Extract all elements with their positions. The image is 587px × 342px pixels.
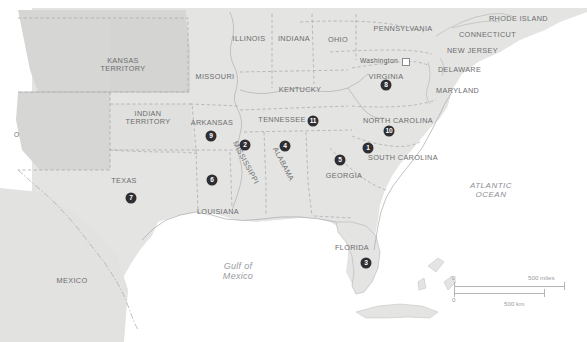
scale-km-line — [454, 293, 544, 294]
marker-6-louisiana[interactable]: 6 — [207, 175, 218, 186]
scale-miles-label: 500 miles — [528, 274, 554, 281]
marker-11-tennessee[interactable]: 11 — [308, 116, 319, 127]
marker-7-texas[interactable]: 7 — [126, 193, 137, 204]
marker-8-virginia[interactable]: 8 — [381, 80, 392, 91]
marker-3-florida[interactable]: 3 — [361, 258, 372, 269]
marker-9-arkansas[interactable]: 9 — [206, 131, 217, 142]
scale-km-tick-end — [544, 289, 545, 297]
scale-miles-tick-end — [564, 282, 565, 290]
marker-4-alabama[interactable]: 4 — [280, 141, 291, 152]
historical-map: KANSASTERRITORY INDIANTERRITORY O TEXAS … — [0, 0, 587, 342]
marker-2-mississippi[interactable]: 2 — [240, 140, 251, 151]
scale-km-label: 500 km — [504, 300, 524, 307]
scale-bar: 0 500 miles 0 500 km — [452, 272, 564, 316]
marker-1-south-carolina[interactable]: 1 — [363, 143, 374, 154]
scale-miles-zero: 0 — [452, 274, 455, 281]
marker-10-north-carolina[interactable]: 10 — [384, 126, 395, 137]
marker-5-georgia[interactable]: 5 — [335, 155, 346, 166]
scale-miles-line — [454, 286, 564, 287]
scale-km-zero: 0 — [452, 296, 455, 303]
